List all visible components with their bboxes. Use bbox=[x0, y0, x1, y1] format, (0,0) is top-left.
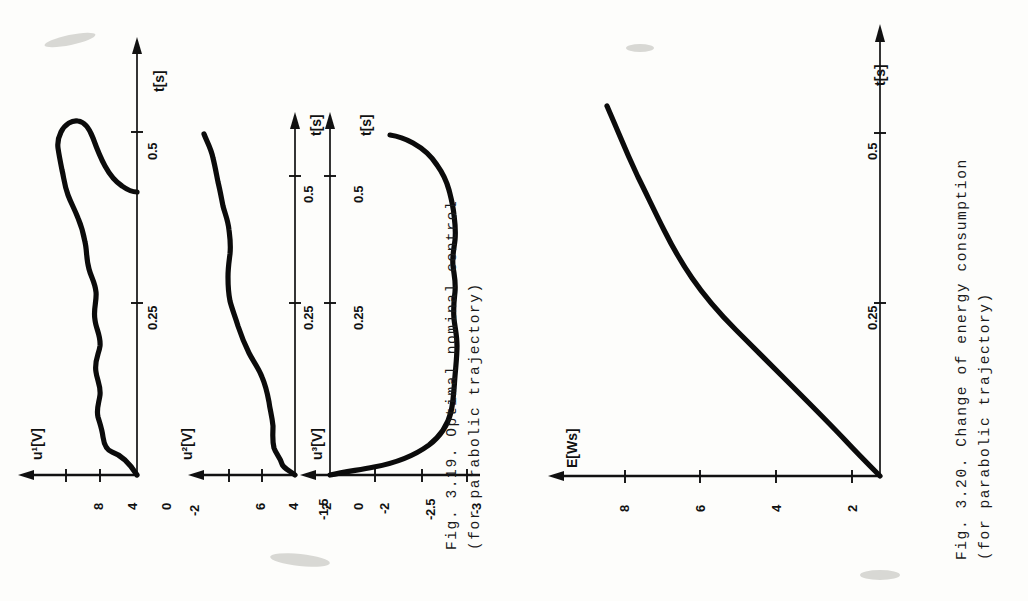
figure-3-19-caption-line2: (for parabolic trajectory) bbox=[468, 282, 483, 550]
figure-3-20-caption-line1: Fig. 3.20. Change of energy consumption bbox=[955, 158, 970, 560]
subplot-energy-graphics bbox=[540, 10, 940, 550]
u1-xtick-05: 0.5 bbox=[146, 143, 159, 160]
u3-time-axis bbox=[324, 112, 336, 475]
u1-xtick-025: 0.25 bbox=[146, 306, 159, 330]
u3-axis-label: u³[V] bbox=[310, 428, 324, 460]
u3-ytick-neg25: -2.5 bbox=[424, 499, 437, 520]
u1-curve bbox=[58, 121, 137, 475]
subplot-u3-graphics bbox=[300, 20, 530, 540]
figure-3-20-caption-line2: (for parabolic trajectory) bbox=[978, 292, 993, 560]
energy-time-axis-label: t[s] bbox=[873, 64, 887, 86]
u1-axis-label-text: u¹[V] bbox=[29, 428, 45, 460]
u1-ytick-8: 8 bbox=[92, 503, 105, 510]
u1-time-axis bbox=[131, 37, 143, 475]
u1-ytick-4: 4 bbox=[126, 503, 139, 510]
energy-xtick-025: 0.25 bbox=[866, 306, 879, 330]
energy-value-axis bbox=[548, 470, 880, 483]
u3-ytick-neg15: -1.5 bbox=[317, 499, 330, 520]
energy-axis-label: E[Ws] bbox=[565, 428, 579, 468]
energy-curve bbox=[607, 106, 880, 476]
u3-xtick-05: 0.5 bbox=[352, 186, 365, 203]
energy-ytick-8: 8 bbox=[618, 505, 631, 512]
u2-ytick-4: 4 bbox=[287, 503, 300, 510]
u2-curve bbox=[204, 134, 295, 475]
energy-ytick-6: 6 bbox=[694, 505, 707, 512]
u1-time-axis-label: t[s] bbox=[152, 70, 166, 92]
energy-time-axis bbox=[874, 24, 886, 476]
u3-ytick-neg2: -2 bbox=[378, 503, 391, 514]
u3-curve bbox=[330, 135, 457, 475]
u2-axis-label: u²[V] bbox=[180, 428, 194, 460]
u1-axis-label: u¹[V] bbox=[30, 428, 44, 460]
energy-xtick-05: 0.5 bbox=[866, 143, 879, 160]
u3-axis-label-text: u³[V] bbox=[309, 428, 325, 460]
scanned-page: 8 4 0 -2 u¹[V] 0.25 0.5 t[s] bbox=[0, 0, 1028, 601]
u2-ytick-6: 6 bbox=[254, 503, 267, 510]
u1-value-axis bbox=[18, 469, 137, 482]
energy-ytick-4: 4 bbox=[770, 505, 783, 512]
u3-time-axis-label: t[s] bbox=[359, 114, 373, 136]
u2-value-axis bbox=[188, 469, 295, 482]
u2-axis-label-text: u²[V] bbox=[179, 428, 195, 460]
figure-3-19-caption-line1: Fig. 3.19. Optimal nominal control bbox=[445, 200, 460, 550]
u3-xtick-025: 0.25 bbox=[352, 306, 365, 330]
energy-ytick-2: 2 bbox=[846, 505, 859, 512]
